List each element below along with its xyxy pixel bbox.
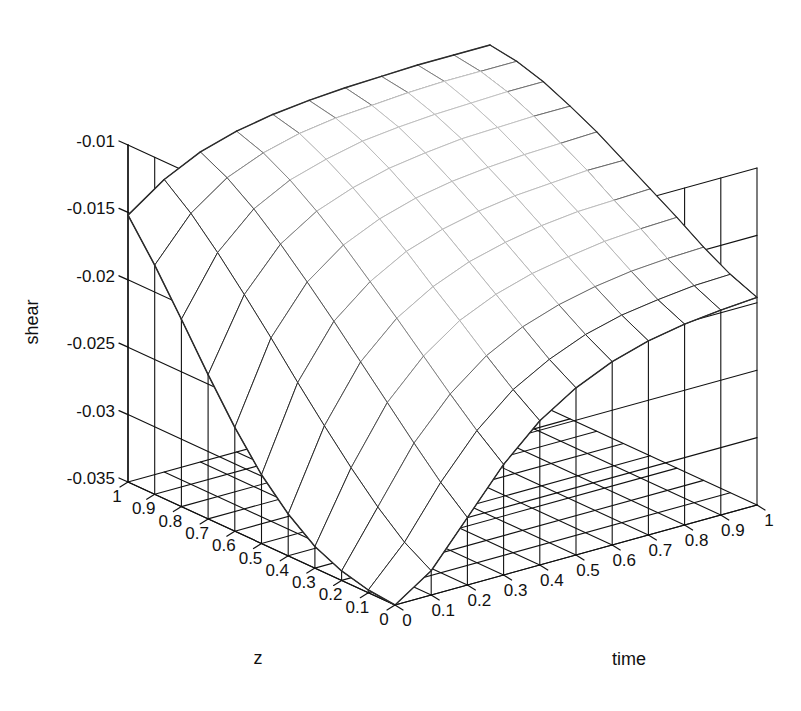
shear-tick-mark — [119, 208, 128, 212]
shear-tick-label: -0.01 — [76, 132, 115, 151]
z-tick-label: 0 — [379, 610, 388, 629]
time-tick-label: 0.5 — [576, 561, 600, 580]
time-tick-label: 0.1 — [431, 601, 455, 620]
time-tick-label: 0.6 — [612, 551, 636, 570]
time-tick-label: 0.2 — [468, 591, 492, 610]
time-tick-mark — [757, 505, 765, 510]
time-axis-title: time — [612, 649, 646, 669]
z-axis-title: z — [254, 648, 263, 668]
time-tick-mark — [540, 565, 548, 570]
surface-plot-canvas: -0.01-0.015-0.02-0.025-0.03-0.035shear10… — [0, 0, 801, 711]
z-tick-label: 0.4 — [265, 561, 289, 580]
time-tick-label: 0.8 — [685, 531, 709, 550]
shear-axis-title: shear — [22, 299, 42, 344]
time-tick-mark — [721, 515, 729, 520]
time-tick-mark — [467, 585, 475, 590]
shear-tick-label: -0.02 — [76, 267, 115, 286]
shear-tick-mark — [119, 276, 128, 280]
time-tick-mark — [685, 525, 693, 530]
time-tick-mark — [504, 575, 512, 580]
shear-tick-mark — [119, 478, 128, 482]
z-tick-label: 0.2 — [319, 585, 343, 604]
time-tick-mark — [431, 595, 439, 600]
time-tick-label: 0.4 — [540, 571, 564, 590]
time-tick-label: 0.3 — [504, 581, 528, 600]
z-tick-label: 0.5 — [239, 549, 263, 568]
time-tick-label: 1 — [764, 511, 773, 530]
time-tick-mark — [395, 605, 403, 610]
shear-tick-label: -0.015 — [67, 199, 115, 218]
shear-tick-label: -0.025 — [67, 334, 115, 353]
time-tick-label: 0.7 — [649, 541, 673, 560]
surface-plot-figure: -0.01-0.015-0.02-0.025-0.03-0.035shear10… — [0, 0, 801, 711]
time-tick-label: 0 — [402, 611, 411, 630]
z-tick-label: 0.6 — [212, 536, 236, 555]
z-tick-label: 0.8 — [159, 512, 183, 531]
time-tick-mark — [648, 535, 656, 540]
z-tick-label: 0.1 — [345, 598, 369, 617]
shear-tick-mark — [119, 343, 128, 347]
z-tick-label: 0.9 — [132, 499, 156, 518]
shear-tick-mark — [119, 411, 128, 415]
shear-tick-mark — [119, 141, 128, 145]
z-tick-label: 1 — [112, 487, 121, 506]
time-tick-mark — [612, 545, 620, 550]
shear-tick-label: -0.035 — [67, 469, 115, 488]
time-tick-mark — [576, 555, 584, 560]
shear-tick-label: -0.03 — [76, 402, 115, 421]
z-tick-label: 0.7 — [185, 524, 209, 543]
time-tick-label: 0.9 — [721, 521, 745, 540]
z-tick-label: 0.3 — [292, 573, 316, 592]
